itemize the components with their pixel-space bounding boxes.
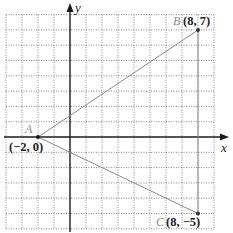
- grid: [6, 15, 214, 229]
- point-c-coords: (8, −5): [166, 215, 200, 229]
- point-a-name: A: [24, 122, 33, 136]
- segment-ac: [38, 137, 198, 214]
- point-a-coords: (−2, 0): [9, 140, 43, 154]
- point-b-coords: (8, 7): [183, 14, 210, 28]
- point-b-name: B: [173, 14, 181, 28]
- x-axis-label: x: [220, 140, 227, 155]
- point-b: [196, 28, 200, 32]
- coordinate-plane: x y A (−2, 0) B (8, 7) C (8, −5): [0, 0, 233, 233]
- segment-ab: [38, 30, 198, 137]
- y-axis-arrow-icon: [67, 3, 74, 12]
- point-c-name: C: [156, 215, 165, 229]
- point-a: [36, 135, 40, 139]
- y-axis-label: y: [73, 0, 81, 15]
